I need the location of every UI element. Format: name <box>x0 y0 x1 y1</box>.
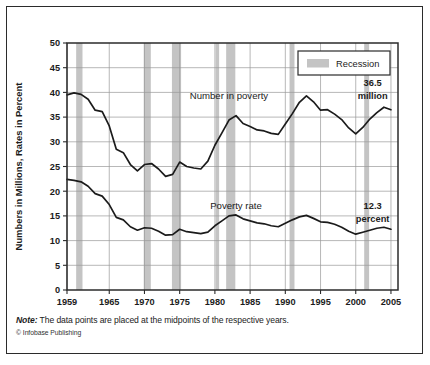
ytick-label: 45 <box>50 63 60 73</box>
xtick-label: 2005 <box>381 297 401 307</box>
legend-label-recession: Recession <box>336 59 379 69</box>
ytick-label: 15 <box>50 211 60 221</box>
ytick-label: 25 <box>50 162 60 172</box>
xtick-label: 1990 <box>275 297 295 307</box>
annotation-series-label: Poverty rate <box>210 200 262 211</box>
ytick-label: 35 <box>50 112 60 122</box>
ytick-label: 20 <box>50 187 60 197</box>
note-prefix: Note: <box>16 315 37 325</box>
ytick-label: 50 <box>50 38 60 48</box>
legend-swatch-recession <box>307 59 329 68</box>
ytick-label: 40 <box>50 88 60 98</box>
chart-canvas: 0510152025303540455019591965197019751980… <box>0 0 430 310</box>
xtick-label: 1965 <box>99 297 119 307</box>
annotation-value-label: 12.3 <box>364 201 382 211</box>
xtick-label: 1980 <box>205 297 225 307</box>
note-text: The data points are placed at the midpoi… <box>37 315 288 325</box>
note-block: Note: The data points are placed at the … <box>16 315 416 336</box>
ytick-label: 10 <box>50 236 60 246</box>
xtick-label: 1985 <box>240 297 260 307</box>
note-line: Note: The data points are placed at the … <box>16 315 416 325</box>
annotation-value-label: million <box>358 91 388 101</box>
poverty-chart-figure: 0510152025303540455019591965197019751980… <box>0 0 430 365</box>
xtick-label: 1995 <box>310 297 330 307</box>
xtick-label: 1959 <box>57 297 77 307</box>
y-axis-title: Numbers in Millions, Rates in Percent <box>13 83 24 251</box>
line-chart: 0510152025303540455019591965197019751980… <box>0 0 430 310</box>
annotation-value-label: 36.5 <box>364 78 382 88</box>
ytick-label: 5 <box>55 261 60 271</box>
annotation-series-label: Number in poverty <box>190 90 269 101</box>
xtick-label: 2000 <box>346 297 366 307</box>
ytick-label: 0 <box>55 285 60 295</box>
ytick-label: 30 <box>50 137 60 147</box>
annotation-value-label: percent <box>356 214 390 224</box>
xtick-label: 1975 <box>169 297 189 307</box>
credit-line: © Infobase Publishing <box>16 329 416 336</box>
xtick-label: 1970 <box>134 297 154 307</box>
